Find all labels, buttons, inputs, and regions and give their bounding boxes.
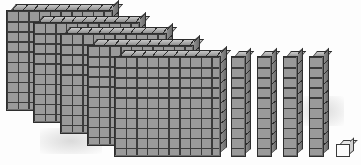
tens-rod[interactable]	[257, 56, 272, 157]
flat-front-face	[114, 56, 221, 157]
hundreds-flat[interactable]	[114, 56, 221, 157]
rod-right-face	[324, 48, 329, 153]
rod-right-face	[246, 48, 251, 153]
rod-front-face	[309, 56, 324, 157]
rod-front-face	[231, 56, 246, 157]
rod-right-face	[272, 48, 277, 153]
rod-right-face	[298, 48, 303, 153]
unit-front-face	[336, 144, 350, 157]
tens-rod[interactable]	[309, 56, 324, 157]
flat-right-face	[221, 46, 227, 152]
base-ten-blocks-canvas	[0, 0, 361, 165]
rod-front-face	[283, 56, 298, 157]
unit-right-face	[350, 137, 354, 154]
ones-unit-cube[interactable]	[336, 144, 350, 157]
tens-rod[interactable]	[283, 56, 298, 157]
tens-rod[interactable]	[231, 56, 246, 157]
rod-front-face	[257, 56, 272, 157]
